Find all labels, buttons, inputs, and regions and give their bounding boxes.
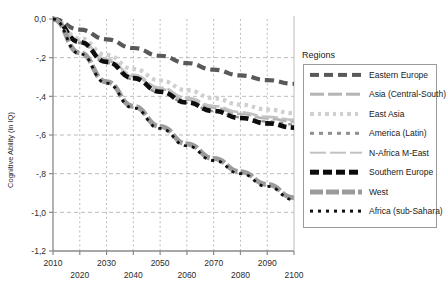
legend-label: Eastern Europe bbox=[369, 70, 428, 80]
x-tick-label-upper: 2010 bbox=[44, 258, 63, 268]
legend-swatch-icon bbox=[310, 147, 362, 158]
chart-plot-area: 0,0-,2-,4-,6-,8-1,0-1,220102030205020702… bbox=[0, 0, 310, 295]
legend-title: Regions bbox=[302, 50, 335, 60]
chart-legend: Eastern EuropeAsia (Central-South)East A… bbox=[303, 64, 437, 228]
legend-swatch-icon bbox=[310, 167, 362, 178]
legend-item[interactable]: America (Latin) bbox=[304, 124, 436, 144]
legend-swatch-icon bbox=[310, 206, 362, 217]
x-tick-label-lower: 2080 bbox=[231, 270, 250, 280]
x-tick-label-lower: 2020 bbox=[70, 270, 89, 280]
legend-item[interactable]: Asia (Central-South) bbox=[304, 85, 436, 105]
x-tick-label-lower: 2100 bbox=[285, 270, 304, 280]
legend-swatch-icon bbox=[310, 128, 362, 139]
legend-label: Africa (sub-Sahara) bbox=[369, 206, 443, 216]
legend-item[interactable]: Southern Europe bbox=[304, 163, 436, 183]
y-axis-title: Cognitive Ability (in IQ) bbox=[6, 112, 15, 188]
series-line-asia-central-south bbox=[53, 19, 294, 121]
legend-label: Southern Europe bbox=[369, 167, 433, 177]
x-tick-label-lower: 2060 bbox=[177, 270, 196, 280]
legend-item[interactable]: Africa (sub-Sahara) bbox=[304, 202, 436, 222]
series-line-southern-europe bbox=[53, 19, 294, 128]
legend-label: N-Africa M-East bbox=[369, 148, 429, 158]
series-line-america-latin bbox=[53, 19, 294, 124]
legend-swatch-icon bbox=[310, 69, 362, 80]
series-line-eastern-europe bbox=[53, 19, 294, 84]
x-tick-label-upper: 2070 bbox=[204, 258, 223, 268]
y-tick-label: 0,0 bbox=[34, 14, 46, 24]
x-tick-label-upper: 2090 bbox=[258, 258, 277, 268]
x-tick-label-upper: 2050 bbox=[151, 258, 170, 268]
legend-label: America (Latin) bbox=[369, 128, 427, 138]
legend-label: East Asia bbox=[369, 109, 404, 119]
y-tick-label: -,2 bbox=[36, 53, 46, 63]
y-tick-label: -,4 bbox=[36, 92, 46, 102]
legend-item[interactable]: West bbox=[304, 182, 436, 202]
y-tick-label: -1,0 bbox=[31, 208, 46, 218]
legend-swatch-icon bbox=[310, 89, 362, 100]
legend-item[interactable]: East Asia bbox=[304, 104, 436, 124]
series-line-n-africa-m-east bbox=[53, 19, 294, 120]
x-tick-label-upper: 2030 bbox=[97, 258, 116, 268]
legend-item[interactable]: N-Africa M-East bbox=[304, 143, 436, 163]
legend-swatch-icon bbox=[310, 108, 362, 119]
legend-item[interactable]: Eastern Europe bbox=[304, 65, 436, 85]
x-tick-label-lower: 2040 bbox=[124, 270, 143, 280]
legend-label: West bbox=[369, 187, 388, 197]
y-tick-label: -,6 bbox=[36, 130, 46, 140]
legend-label: Asia (Central-South) bbox=[369, 89, 446, 99]
legend-swatch-icon bbox=[310, 186, 362, 197]
y-tick-label: -1,2 bbox=[31, 246, 46, 256]
y-tick-label: -,8 bbox=[36, 169, 46, 179]
